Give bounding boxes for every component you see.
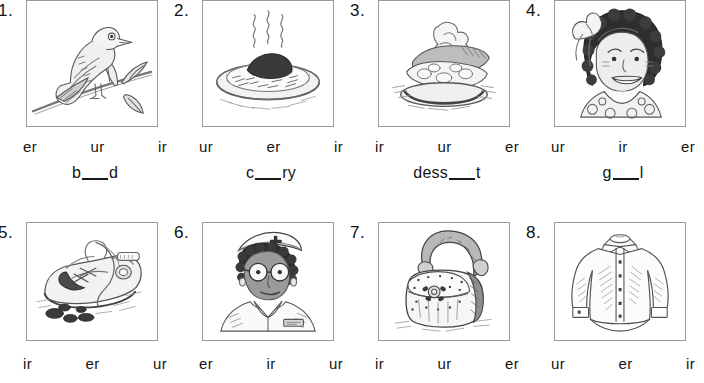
option-choice[interactable]: er [199,355,213,372]
answer-blank[interactable] [82,178,108,180]
option-choice[interactable]: ur [329,355,343,372]
option-choice[interactable]: ir [267,355,276,372]
option-choice[interactable]: er [505,138,519,155]
option-choice[interactable]: ir [686,355,695,372]
option-group: ur er ir [547,355,699,372]
option-choice[interactable]: er [619,355,633,372]
answer-blank[interactable] [449,178,475,180]
worksheet-page: 1. [0,0,704,383]
word-suffix: d [109,164,118,181]
worksheet-item: 5. [0,222,176,383]
picture-box-shirt [554,222,686,341]
picture-box-plate-of-curry [202,0,334,127]
option-choice[interactable]: er [681,138,695,155]
worksheet-item: 8. [528,222,704,383]
item-number: 4. [526,2,541,19]
worksheet-row: 5. [0,222,704,383]
option-choice[interactable]: ir [334,138,343,155]
picture-box-nurse [202,222,334,341]
worksheet-row: 1. [0,0,704,205]
option-group: ur er ir [195,138,347,155]
picture-box-slice-of-cake [378,0,510,127]
item-header: 2. [188,0,340,128]
option-choice[interactable]: ir [619,138,628,155]
picture-box-purse [378,222,510,341]
word-suffix: l [640,164,644,181]
option-choice[interactable]: ir [158,138,167,155]
item-header: 6. [188,222,340,344]
option-group: ir ur er [371,355,523,372]
option-choice[interactable]: ur [91,138,105,155]
word-with-blank: gl [547,164,699,182]
option-choice[interactable]: er [267,138,281,155]
option-choice[interactable]: ur [153,355,167,372]
option-choice[interactable]: ur [438,138,452,155]
option-choice[interactable]: ur [199,138,213,155]
worksheet-item: 3. [352,0,528,205]
option-choice[interactable]: er [86,355,100,372]
word-suffix: ry [282,164,296,181]
item-header: 5. [12,222,164,344]
worksheet-item: 6. [176,222,352,383]
option-choice[interactable]: er [505,355,519,372]
option-group: er ur ir [19,138,171,155]
word-prefix: dess [413,164,448,181]
item-header: 1. [12,0,164,128]
option-group: ir ur er [371,138,523,155]
option-choice[interactable]: ur [438,355,452,372]
word-prefix: b [72,164,81,181]
picture-box-girl-with-bow [554,0,686,127]
option-group: ir er ur [19,355,171,372]
item-header: 7. [364,222,516,344]
item-number: 7. [350,224,365,241]
item-number: 3. [350,2,365,19]
word-with-blank: cry [195,164,347,182]
word-suffix: t [476,164,481,181]
worksheet-item: 1. [0,0,176,205]
option-choice[interactable]: ir [375,138,384,155]
item-header: 4. [540,0,692,128]
item-number: 5. [0,224,13,241]
option-group: ur ir er [547,138,699,155]
item-number: 8. [526,224,541,241]
answer-blank[interactable] [613,178,639,180]
word-with-blank: bd [19,164,171,182]
option-group: er ir ur [195,355,347,372]
item-number: 6. [174,224,189,241]
answer-blank[interactable] [255,178,281,180]
option-choice[interactable]: ur [551,355,565,372]
word-prefix: g [603,164,612,181]
item-number: 1. [0,2,13,19]
picture-box-muddy-shoe [26,222,158,341]
option-choice[interactable]: ir [23,355,32,372]
item-number: 2. [174,2,189,19]
item-header: 3. [364,0,516,128]
worksheet-item: 7. [352,222,528,383]
worksheet-item: 2. [176,0,352,205]
worksheet-item: 4. [528,0,704,205]
word-prefix: c [246,164,254,181]
picture-box-bird-on-branch [26,0,158,127]
option-choice[interactable]: er [23,138,37,155]
option-choice[interactable]: ur [551,138,565,155]
item-header: 8. [540,222,692,344]
word-with-blank: desst [371,164,523,182]
option-choice[interactable]: ir [375,355,384,372]
